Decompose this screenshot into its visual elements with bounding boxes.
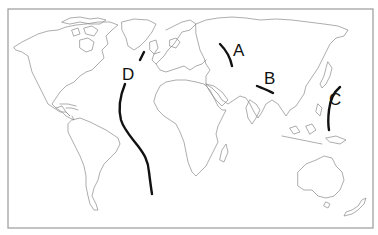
india-outline [246,100,260,124]
boundary-line-d-lower [120,84,152,194]
north-america-outline [14,22,118,116]
uk-outline [150,40,158,54]
indonesia-outline [282,104,346,144]
boundary-line-d-upper [140,52,144,60]
arabia-outline [206,84,228,106]
madagascar-outline [220,144,228,162]
central-america-outline [56,104,78,120]
africa-outline [154,80,226,176]
europe-outline [152,20,206,72]
label-b: B [264,69,275,88]
world-map: A B C D [0,0,378,235]
map-frame [8,9,373,228]
japan-outline [320,62,332,88]
label-a: A [233,41,245,60]
new-zealand-outline [344,198,366,216]
south-america-outline [68,118,120,210]
hudson-bay-outline [80,38,94,52]
australia-outline [298,156,344,198]
label-d: D [122,65,134,84]
label-c: C [329,90,341,109]
tasmania-outline [324,202,330,208]
boundary-line-a [220,44,232,66]
greenland-outline [122,19,156,50]
